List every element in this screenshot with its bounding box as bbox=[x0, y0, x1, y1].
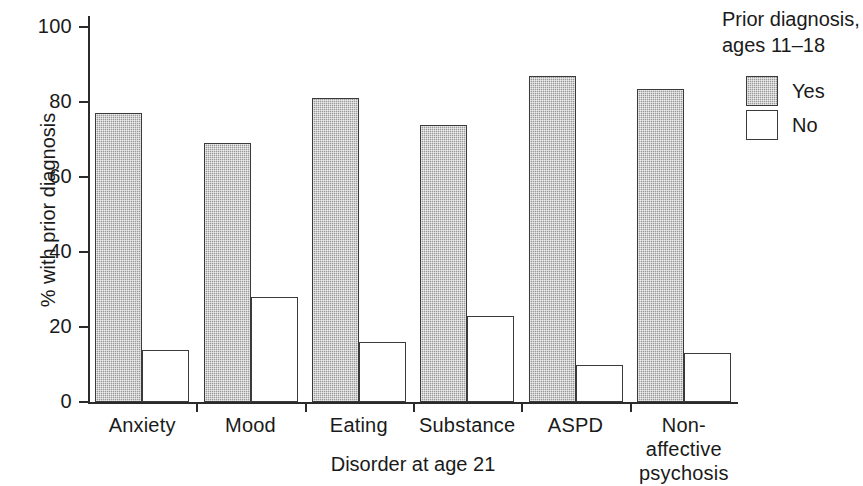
bar-no-4 bbox=[576, 365, 623, 403]
x-axis-category-label-4: ASPD bbox=[521, 413, 629, 437]
category-label-line-1: Substance bbox=[413, 413, 521, 437]
legend-row-yes: Yes bbox=[746, 74, 863, 108]
legend: Prior diagnosis, ages 11–18 YesNo bbox=[722, 6, 863, 142]
y-axis-title: % with prior diagnosis bbox=[36, 50, 60, 370]
legend-label-no: No bbox=[792, 115, 818, 135]
y-axis-tick-100 bbox=[79, 26, 88, 28]
bar-yes-2 bbox=[312, 98, 359, 402]
y-axis-tick-40 bbox=[79, 251, 88, 253]
legend-swatch-no bbox=[746, 110, 778, 140]
legend-title-line-2: ages 11–18 bbox=[722, 32, 863, 58]
bar-yes-1 bbox=[204, 143, 251, 402]
bar-chart-figure: 020406080100 AnxietyMoodEatingSubstanceA… bbox=[0, 0, 863, 486]
bar-no-0 bbox=[142, 350, 189, 403]
y-axis-tick-60 bbox=[79, 176, 88, 178]
y-axis-tick-label-0: 0 bbox=[2, 391, 72, 411]
x-axis-category-label-1: Mood bbox=[196, 413, 304, 437]
category-label-line-1: ASPD bbox=[521, 413, 629, 437]
x-axis-category-label-2: Eating bbox=[305, 413, 413, 437]
y-axis-tick-0 bbox=[79, 401, 88, 403]
x-axis-title: Disorder at age 21 bbox=[88, 452, 738, 476]
category-label-line-1: Eating bbox=[305, 413, 413, 437]
x-axis-category-label-3: Substance bbox=[413, 413, 521, 437]
y-axis-tick-20 bbox=[79, 326, 88, 328]
bar-no-1 bbox=[251, 297, 298, 402]
bar-no-3 bbox=[467, 316, 514, 402]
legend-title-line-1: Prior diagnosis, bbox=[722, 6, 863, 32]
y-axis-tick-80 bbox=[79, 101, 88, 103]
x-axis-tick-4 bbox=[521, 404, 523, 412]
bar-yes-0 bbox=[95, 113, 142, 402]
y-axis-tick-label-wrap: 0 bbox=[0, 391, 72, 411]
x-axis-tick-3 bbox=[413, 404, 415, 412]
x-axis-tick-2 bbox=[305, 404, 307, 412]
legend-items: YesNo bbox=[746, 74, 863, 142]
y-axis-tick-label-wrap: 100 bbox=[0, 16, 72, 36]
bar-yes-3 bbox=[420, 125, 467, 403]
y-axis-tick-label-100: 100 bbox=[2, 16, 72, 36]
bar-yes-4 bbox=[529, 76, 576, 402]
x-axis-category-label-0: Anxiety bbox=[88, 413, 196, 437]
legend-swatch-yes bbox=[746, 76, 778, 106]
category-label-line-1: Anxiety bbox=[88, 413, 196, 437]
bar-no-2 bbox=[359, 342, 406, 402]
legend-row-no: No bbox=[746, 108, 863, 142]
bar-no-5 bbox=[684, 353, 731, 402]
x-axis-tick-1 bbox=[196, 404, 198, 412]
x-axis-tick-5 bbox=[630, 404, 632, 412]
category-label-line-1: Mood bbox=[196, 413, 304, 437]
legend-label-yes: Yes bbox=[792, 81, 825, 101]
bar-yes-5 bbox=[637, 89, 684, 402]
plot-area bbox=[88, 16, 738, 402]
